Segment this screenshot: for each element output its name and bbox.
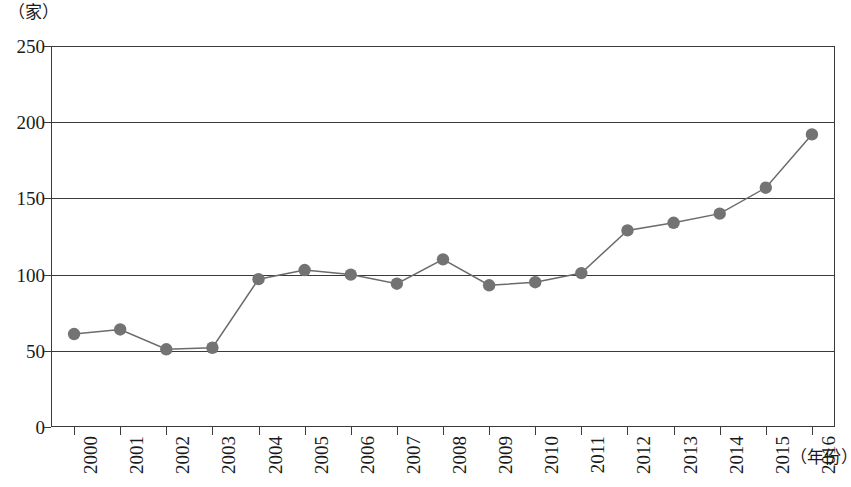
x-axis-tick-label: 2006 bbox=[358, 436, 377, 474]
data-point-marker bbox=[760, 182, 772, 194]
x-axis-tick-label: 2003 bbox=[219, 436, 238, 474]
y-axis-tick-mark bbox=[44, 122, 51, 123]
x-axis-tick-mark-group bbox=[51, 427, 835, 436]
data-point-marker bbox=[529, 276, 541, 288]
data-point-marker bbox=[483, 279, 495, 291]
y-axis-tick-mark-group bbox=[0, 46, 51, 427]
x-axis-tick-mark bbox=[674, 427, 675, 435]
x-axis-tick-mark bbox=[627, 427, 628, 435]
y-axis-tick-mark bbox=[44, 275, 51, 276]
data-point-marker bbox=[621, 224, 633, 236]
data-point-marker bbox=[206, 342, 218, 354]
data-series-overlay bbox=[51, 46, 835, 427]
x-axis-tick-label: 2001 bbox=[127, 436, 146, 474]
x-axis-unit-label: （年份） bbox=[790, 448, 851, 468]
data-point-marker bbox=[298, 264, 310, 276]
x-axis-tick-mark bbox=[166, 427, 167, 435]
x-axis-tick-mark bbox=[120, 427, 121, 435]
x-axis-tick-mark bbox=[397, 427, 398, 435]
data-point-marker bbox=[575, 267, 587, 279]
x-axis-tick-mark bbox=[74, 427, 75, 435]
x-axis-tick-label: 2012 bbox=[634, 436, 653, 474]
data-point-marker bbox=[114, 323, 126, 335]
data-point-marker bbox=[160, 343, 172, 355]
data-point-marker bbox=[806, 128, 818, 140]
x-axis-tick-label: 2010 bbox=[542, 436, 561, 474]
data-point-marker bbox=[437, 253, 449, 265]
chart-container: （家） 050100150200250 20002001200220032004… bbox=[0, 0, 851, 487]
x-axis-tick-label: 2013 bbox=[681, 436, 700, 474]
x-axis-tick-mark bbox=[581, 427, 582, 435]
x-axis-tick-mark bbox=[305, 427, 306, 435]
x-axis-tick-mark bbox=[535, 427, 536, 435]
x-axis-tick-label: 2008 bbox=[450, 436, 469, 474]
y-axis-tick-mark bbox=[44, 198, 51, 199]
x-axis-tick-label: 2011 bbox=[588, 436, 607, 473]
x-axis-tick-mark bbox=[212, 427, 213, 435]
x-axis-tick-mark bbox=[766, 427, 767, 435]
data-point-marker bbox=[345, 268, 357, 280]
x-axis-tick-label: 2009 bbox=[496, 436, 515, 474]
data-point-marker bbox=[667, 217, 679, 229]
x-axis-tick-label: 2007 bbox=[404, 436, 423, 474]
data-point-marker bbox=[714, 207, 726, 219]
x-axis-tick-label: 2004 bbox=[266, 436, 285, 474]
x-axis-tick-mark bbox=[259, 427, 260, 435]
x-axis-tick-label: 2000 bbox=[81, 436, 100, 474]
data-point-marker bbox=[391, 278, 403, 290]
x-axis-tick-label: 2015 bbox=[773, 436, 792, 474]
x-axis-tick-mark bbox=[812, 427, 813, 435]
x-axis-tick-mark bbox=[443, 427, 444, 435]
data-point-marker bbox=[68, 328, 80, 340]
x-axis-tick-label: 2014 bbox=[727, 436, 746, 474]
x-axis-tick-mark bbox=[489, 427, 490, 435]
x-axis-tick-label: 2002 bbox=[173, 436, 192, 474]
y-axis-tick-mark bbox=[44, 46, 51, 47]
y-axis-tick-mark bbox=[44, 427, 51, 428]
x-axis-tick-mark bbox=[351, 427, 352, 435]
series-line bbox=[74, 134, 812, 349]
x-axis-tick-label-group: 2000200120022003200420052006200720082009… bbox=[51, 436, 835, 487]
x-axis-tick-label: 2005 bbox=[312, 436, 331, 474]
x-axis-tick-mark bbox=[720, 427, 721, 435]
y-axis-tick-mark bbox=[44, 351, 51, 352]
data-point-marker bbox=[252, 273, 264, 285]
y-axis-unit-label: （家） bbox=[8, 2, 59, 24]
